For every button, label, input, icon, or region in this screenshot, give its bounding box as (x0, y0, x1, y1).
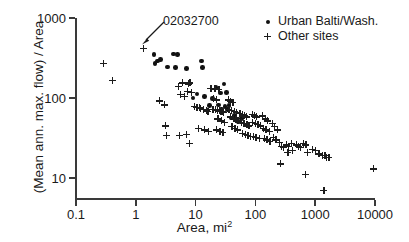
data-point-other (213, 96, 220, 103)
data-point-urban (200, 65, 205, 70)
x-axis-title-exponent: 2 (227, 219, 232, 229)
data-point-urban (165, 65, 170, 70)
data-point-other (176, 132, 183, 139)
data-point-urban (153, 61, 158, 66)
data-point-urban (199, 59, 204, 64)
data-point-other (162, 122, 169, 129)
x-tick (255, 200, 257, 206)
chart-figure: 0.1110100100010000100010010 02032700 Urb… (0, 0, 409, 242)
data-point-other (186, 140, 193, 147)
y-tick (69, 177, 75, 179)
data-point-urban (173, 65, 178, 70)
data-point-other (109, 77, 116, 84)
x-tick (75, 200, 77, 206)
data-point-urban (184, 66, 189, 71)
data-point-urban (175, 52, 180, 57)
data-point-other (100, 60, 107, 67)
x-tick-label: 10000 (335, 208, 409, 221)
data-point-other (188, 89, 195, 96)
filled-circle-marker-icon (262, 16, 276, 28)
data-point-other (163, 132, 170, 139)
x-axis-title-base: Area, mi (177, 220, 227, 235)
data-point-other (302, 171, 309, 178)
data-point-urban (158, 57, 163, 62)
data-point-other (215, 86, 222, 93)
x-tick (314, 200, 316, 206)
y-tick (69, 17, 75, 19)
data-point-other (320, 187, 327, 194)
data-point-other (274, 126, 281, 133)
data-point-urban (222, 82, 227, 87)
y-axis-title: (Mean ann. max. flow) / Area (32, 0, 46, 222)
x-tick (135, 200, 137, 206)
legend-label-other: Other sites (278, 31, 338, 43)
data-point-urban (191, 96, 196, 101)
plus-marker-icon (262, 31, 276, 43)
plot-area (76, 18, 375, 199)
data-point-other (325, 154, 332, 161)
data-point-urban (224, 90, 229, 95)
data-point-other (229, 99, 236, 106)
data-point-urban (152, 52, 157, 57)
data-point-urban (195, 92, 200, 97)
y-tick (69, 97, 75, 99)
data-point-other (370, 165, 377, 172)
x-tick (374, 200, 376, 206)
data-point-other (219, 129, 226, 136)
data-point-other (183, 131, 190, 138)
legend-label-urban: Urban Balti/Wash. (278, 16, 378, 28)
data-point-other (205, 128, 212, 135)
data-point-urban (202, 94, 207, 99)
x-tick (195, 200, 197, 206)
data-point-other (186, 79, 193, 86)
data-point-other (195, 125, 202, 132)
annotation-label: 02032700 (163, 15, 219, 28)
data-point-other (277, 160, 284, 167)
data-point-other (161, 101, 168, 108)
x-axis-title: Area, mi2 (0, 221, 409, 235)
